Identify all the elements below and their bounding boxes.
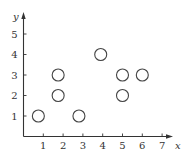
y-tick-label: 2 [11, 90, 17, 101]
y-tick-label: 1 [11, 111, 17, 122]
data-point-circle [32, 110, 44, 122]
x-tick-label: 5 [119, 140, 125, 151]
axes: xy [12, 11, 181, 151]
y-tick-label: 5 [11, 29, 17, 40]
data-point-circle [117, 90, 129, 102]
data-point-circle [52, 69, 64, 81]
y-tick-label: 3 [11, 70, 17, 81]
y-tick-label: 4 [11, 49, 17, 60]
data-point-circle [117, 69, 129, 81]
data-point-circle [95, 49, 107, 61]
y-axis-label: y [12, 11, 19, 22]
x-tick-label: 1 [40, 140, 46, 151]
y-axis-arrow-icon [21, 12, 25, 19]
x-tick-label: 6 [139, 140, 145, 151]
x-tick-label: 2 [60, 140, 66, 151]
x-tick-label: 7 [159, 140, 165, 151]
x-axis-label: x [175, 140, 181, 151]
x-tick-label: 3 [80, 140, 86, 151]
x-axis-arrow-icon [166, 134, 173, 138]
data-point-circle [52, 90, 64, 102]
scatter-chart: xy 123456712345 [0, 0, 186, 161]
x-tick-label: 4 [100, 140, 106, 151]
ticks: 123456712345 [11, 29, 165, 151]
data-point-circle [136, 69, 148, 81]
data-points [32, 49, 148, 123]
data-point-circle [73, 110, 85, 122]
